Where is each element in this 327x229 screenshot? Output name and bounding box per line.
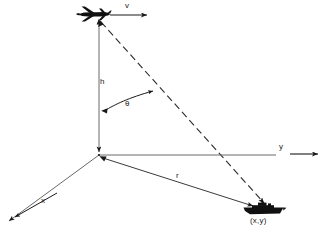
aircraft-icon	[77, 7, 112, 22]
x-axis-line	[9, 155, 99, 221]
angle-label: θ	[125, 100, 130, 108]
range-label: r	[176, 172, 179, 180]
ship-position-label: (x,y)	[250, 217, 267, 225]
diagram-canvas: v h θ y x r (x,y)	[0, 0, 327, 229]
angle-arc-arrowhead-left	[101, 108, 107, 113]
ship-icon	[244, 200, 287, 214]
origin-point	[98, 154, 100, 156]
x-axis-direction-arrow	[15, 193, 57, 217]
geometry-diagram	[0, 0, 327, 229]
x-axis-label: x	[41, 197, 45, 205]
velocity-label: v	[125, 2, 129, 10]
line-of-sight-dashed	[101, 22, 264, 203]
y-axis-label: y	[279, 143, 283, 151]
altitude-label: h	[100, 78, 105, 86]
